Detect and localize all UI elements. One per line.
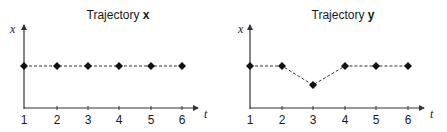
- svg-text:3: 3: [85, 113, 92, 127]
- figure: Trajectory x x t 1 2 3 4 5 6 Trajectory …: [0, 0, 447, 132]
- chart-trajectory-x: Trajectory x x t 1 2 3 4 5 6: [9, 8, 208, 127]
- svg-text:6: 6: [405, 113, 412, 127]
- svg-text:2: 2: [54, 113, 61, 127]
- svg-text:3: 3: [310, 113, 317, 127]
- chart-title: Trajectory x: [87, 8, 150, 22]
- series-line: [250, 66, 408, 85]
- svg-text:2: 2: [279, 113, 286, 127]
- x-axis-label: t: [430, 107, 434, 121]
- x-axis-label: t: [204, 107, 208, 121]
- svg-text:5: 5: [148, 113, 155, 127]
- svg-text:1: 1: [247, 113, 254, 127]
- y-axis-label: x: [9, 22, 16, 36]
- svg-text:1: 1: [21, 113, 28, 127]
- x-tick-labels: 1 2 3 4 5 6: [247, 113, 412, 127]
- x-tick-labels: 1 2 3 4 5 6: [21, 113, 186, 127]
- chart-title: Trajectory y: [312, 8, 375, 22]
- svg-text:4: 4: [342, 113, 349, 127]
- svg-text:5: 5: [373, 113, 380, 127]
- svg-text:4: 4: [116, 113, 123, 127]
- svg-text:6: 6: [179, 113, 186, 127]
- y-axis-label: x: [237, 22, 244, 36]
- chart-trajectory-y: Trajectory y x t 1 2 3 4 5 6: [237, 8, 434, 127]
